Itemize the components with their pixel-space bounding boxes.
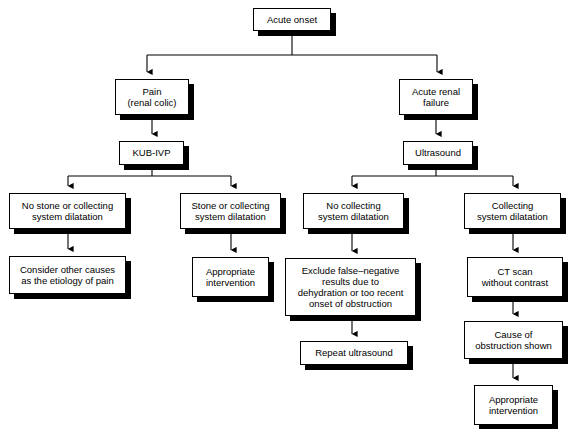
node-ct-scan[interactable]: CT scan without contrast <box>467 257 563 297</box>
node-label: Pain (renal colic) <box>124 86 179 108</box>
node-consider-other-causes[interactable]: Consider other causes as the etiology of… <box>9 256 126 294</box>
node-label: Appropriate intervention <box>486 394 541 416</box>
node-label: Appropriate intervention <box>203 266 258 288</box>
node-label: No collecting system dilatation <box>315 200 392 222</box>
node-label: Cause of obstruction shown <box>472 329 555 351</box>
node-label: KUB-IVP <box>129 147 173 158</box>
flowchart-canvas: Acute onsetPain (renal colic)Acute renal… <box>0 0 572 429</box>
node-kub-ivp[interactable]: KUB-IVP <box>119 141 184 165</box>
node-pain-renal-colic[interactable]: Pain (renal colic) <box>115 79 189 115</box>
node-label: Ultrasound <box>412 147 464 158</box>
node-exclude-false-negative[interactable]: Exclude false–negative results due to de… <box>285 258 416 316</box>
node-repeat-ultrasound[interactable]: Repeat ultrasound <box>300 341 408 365</box>
node-collecting-dilatation[interactable]: Collecting system dilatation <box>464 193 561 229</box>
node-acute-renal-failure[interactable]: Acute renal failure <box>399 79 473 115</box>
node-label: Exclude false–negative results due to de… <box>295 265 407 310</box>
node-label: Acute renal failure <box>409 86 463 108</box>
node-acute-onset[interactable]: Acute onset <box>253 8 331 31</box>
node-appropriate-intervention-right[interactable]: Appropriate intervention <box>474 385 553 425</box>
node-cause-of-obstruction[interactable]: Cause of obstruction shown <box>464 321 563 359</box>
node-stone-or-collecting[interactable]: Stone or collecting system dilatation <box>180 193 281 229</box>
node-ultrasound[interactable]: Ultrasound <box>403 141 473 165</box>
node-label: Repeat ultrasound <box>312 347 396 358</box>
node-label: CT scan without contrast <box>479 266 552 288</box>
node-label: Acute onset <box>264 14 320 25</box>
node-no-stone-or-collecting[interactable]: No stone or collecting system dilatation <box>9 193 126 229</box>
node-no-collecting-dilatation[interactable]: No collecting system dilatation <box>303 193 404 229</box>
node-appropriate-intervention-left[interactable]: Appropriate intervention <box>192 257 269 297</box>
node-label: Collecting system dilatation <box>474 200 551 222</box>
node-label: Stone or collecting system dilatation <box>188 200 272 222</box>
node-label: Consider other causes as the etiology of… <box>17 264 118 286</box>
node-label: No stone or collecting system dilatation <box>19 200 116 222</box>
